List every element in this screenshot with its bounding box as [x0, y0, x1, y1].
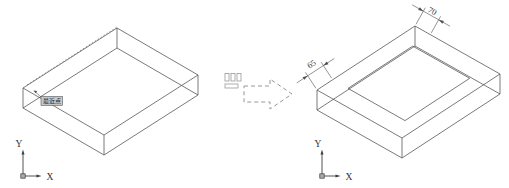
canvas-background — [0, 0, 509, 188]
cad-canvas: 最近点 Y X — [0, 0, 509, 188]
y-axis-label: Y — [315, 139, 322, 149]
ucs-origin-marker — [320, 174, 324, 178]
tooltip-label: 最近点 — [43, 97, 61, 105]
cad-figure: 最近点 Y X — [0, 0, 509, 188]
x-axis-label: X — [47, 172, 54, 182]
x-axis-label: X — [346, 172, 353, 182]
ucs-origin-marker — [21, 174, 25, 178]
y-axis-label: Y — [16, 139, 23, 149]
